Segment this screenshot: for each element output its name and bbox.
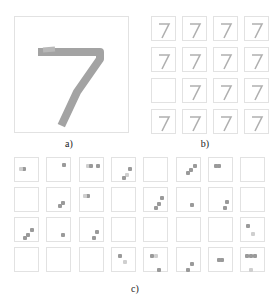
panel-b-cell bbox=[213, 47, 238, 72]
activation-dot bbox=[190, 203, 194, 207]
panel-c-cell bbox=[143, 217, 168, 242]
panel-c-cell bbox=[176, 217, 201, 242]
panel-a-caption: a) bbox=[54, 138, 84, 149]
panel-c-cell bbox=[143, 157, 168, 182]
activation-dot bbox=[225, 200, 229, 204]
digit-seven-small bbox=[214, 79, 239, 104]
digit-seven-small bbox=[183, 79, 208, 104]
activation-dot bbox=[217, 164, 221, 168]
panel-c-cell bbox=[46, 247, 71, 272]
activation-dot bbox=[23, 236, 27, 240]
digit-seven-small bbox=[245, 110, 270, 135]
digit-seven-small bbox=[214, 110, 239, 135]
activation-dot bbox=[96, 164, 100, 168]
activation-dot bbox=[253, 254, 257, 258]
digit-seven-small bbox=[152, 110, 177, 135]
panel-c-cell bbox=[79, 217, 104, 242]
panel-c-cell bbox=[208, 157, 233, 182]
panel-c-cell bbox=[14, 217, 39, 242]
panel-b-caption: b) bbox=[190, 138, 220, 149]
activation-dot bbox=[154, 254, 158, 258]
activation-dot bbox=[246, 224, 250, 228]
panel-c-cell bbox=[46, 157, 71, 182]
panel-b-cell bbox=[244, 109, 269, 134]
panel-c-cell bbox=[176, 157, 201, 182]
digit-seven-small bbox=[183, 17, 208, 42]
activation-dot bbox=[62, 163, 66, 167]
panel-b-cell bbox=[244, 47, 269, 72]
activation-dot bbox=[160, 196, 164, 200]
panel-c-cell bbox=[240, 217, 265, 242]
activation-dot bbox=[58, 204, 62, 208]
digit-seven-small bbox=[214, 48, 239, 73]
panel-c-cell bbox=[240, 157, 265, 182]
panel-c-cell bbox=[14, 187, 39, 212]
activation-dot bbox=[154, 206, 158, 210]
panel-b-cell bbox=[151, 109, 176, 134]
digit-seven-large bbox=[15, 17, 130, 134]
activation-dot bbox=[122, 176, 126, 180]
activation-dot bbox=[19, 167, 23, 171]
panel-c-cell bbox=[14, 157, 39, 182]
digit-seven-small bbox=[245, 17, 270, 42]
activation-dot bbox=[190, 262, 194, 266]
panel-b-cell bbox=[244, 16, 269, 41]
panel-b-cell bbox=[182, 47, 207, 72]
activation-dot bbox=[186, 268, 190, 272]
panel-c-cell bbox=[79, 157, 104, 182]
activation-dot bbox=[223, 206, 227, 210]
panel-c-caption: c) bbox=[120, 283, 150, 294]
panel-c-cell bbox=[143, 247, 168, 272]
panel-c-cell bbox=[111, 157, 136, 182]
panel-c-cell bbox=[208, 217, 233, 242]
activation-dot bbox=[220, 258, 224, 262]
panel-c-cell bbox=[208, 247, 233, 272]
panel-b-cell bbox=[151, 16, 176, 41]
panel-c-cell bbox=[111, 217, 136, 242]
activation-dot bbox=[193, 164, 197, 168]
panel-c-cell bbox=[176, 247, 201, 272]
panel-b-cell bbox=[213, 78, 238, 103]
activation-dot bbox=[95, 230, 99, 234]
panel-c-cell bbox=[79, 247, 104, 272]
panel-c-cell bbox=[46, 187, 71, 212]
activation-dot bbox=[92, 236, 96, 240]
digit-seven-small bbox=[152, 48, 177, 73]
panel-a-image bbox=[14, 16, 129, 133]
activation-dot bbox=[251, 232, 255, 236]
panel-c-cell bbox=[176, 187, 201, 212]
panel-c-cell bbox=[111, 247, 136, 272]
activation-dot bbox=[118, 254, 122, 258]
activation-dot bbox=[123, 260, 127, 264]
panel-b-cell bbox=[213, 16, 238, 41]
panel-c-cell bbox=[143, 187, 168, 212]
panel-b-cell bbox=[244, 78, 269, 103]
panel-c-cell bbox=[240, 247, 265, 272]
digit-seven-small bbox=[214, 17, 239, 42]
digit-seven-small bbox=[152, 17, 177, 42]
activation-dot bbox=[249, 268, 253, 272]
activation-dot bbox=[30, 228, 34, 232]
digit-seven-small bbox=[245, 79, 270, 104]
panel-c-cell bbox=[208, 187, 233, 212]
panel-b-cell bbox=[151, 47, 176, 72]
panel-b-cell bbox=[151, 78, 176, 103]
activation-dot bbox=[61, 233, 65, 237]
panel-c-cell bbox=[79, 187, 104, 212]
activation-dot bbox=[128, 167, 132, 171]
panel-c-cell bbox=[240, 187, 265, 212]
panel-b-cell bbox=[182, 78, 207, 103]
digit-seven-small bbox=[183, 110, 208, 135]
activation-dot bbox=[157, 268, 161, 272]
digit-seven-small bbox=[183, 48, 208, 73]
activation-dot bbox=[186, 171, 190, 175]
panel-c-cell bbox=[46, 217, 71, 242]
panel-b-cell bbox=[213, 109, 238, 134]
activation-dot bbox=[83, 194, 87, 198]
digit-seven-small bbox=[245, 48, 270, 73]
panel-c-cell bbox=[14, 247, 39, 272]
panel-b-cell bbox=[182, 16, 207, 41]
panel-c-cell bbox=[111, 187, 136, 212]
panel-b-cell bbox=[182, 109, 207, 134]
activation-dot bbox=[89, 164, 93, 168]
